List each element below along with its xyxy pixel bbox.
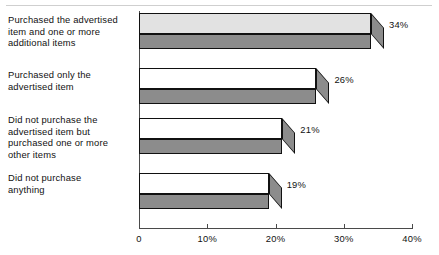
x-tick-10 xyxy=(207,224,208,229)
x-tick-0 xyxy=(139,224,140,229)
bar-0-side-face xyxy=(371,13,384,49)
x-tick-label-20: 20% xyxy=(266,233,285,244)
plot-area: 010%20%30%40% 34%26%21%19% xyxy=(0,0,439,255)
x-tick-label-30: 30% xyxy=(334,233,353,244)
bar-2-top-face xyxy=(139,118,282,139)
x-tick-label-40: 40% xyxy=(402,233,421,244)
bar-0-top-face xyxy=(139,13,371,34)
bar-3-top-face xyxy=(139,173,269,194)
bar-3-side-face xyxy=(269,173,282,209)
bar-0-front-face xyxy=(139,34,371,49)
bar-2-side-face xyxy=(282,118,295,154)
bar-1-side-face xyxy=(316,68,329,104)
bar-1-front-face xyxy=(139,89,316,104)
bar-2-front-face xyxy=(139,139,282,154)
bar-3-front-face xyxy=(139,194,269,209)
bar-value-label-1: 26% xyxy=(334,74,353,85)
x-tick-40 xyxy=(412,224,413,229)
bar-0 xyxy=(139,13,384,49)
bar-value-label-3: 19% xyxy=(287,179,306,190)
bar-3 xyxy=(139,173,282,209)
bar-1-top-face xyxy=(139,68,316,89)
x-tick-label-10: 10% xyxy=(198,233,217,244)
x-tick-20 xyxy=(276,224,277,229)
bar-1 xyxy=(139,68,329,104)
bar-2 xyxy=(139,118,295,154)
x-tick-label-0: 0 xyxy=(136,233,141,244)
bar-value-label-0: 34% xyxy=(389,19,408,30)
bar-value-label-2: 21% xyxy=(300,124,319,135)
x-tick-30 xyxy=(344,224,345,229)
bar-chart: Purchased the advertised item and one or… xyxy=(0,0,439,255)
